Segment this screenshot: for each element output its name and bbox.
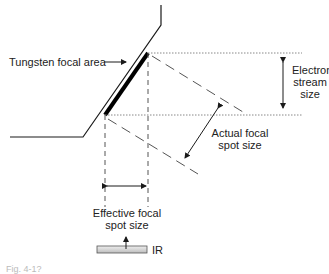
anode-outline [10, 5, 161, 137]
image-receptor-label: IR [152, 244, 163, 256]
actual-bottom-line [108, 119, 198, 174]
actual-focal-label-line1: Actual focal [200, 127, 280, 139]
effective-focal-label: Effective focal spot size [86, 207, 168, 231]
electron-stream-label-line3: size [292, 88, 328, 100]
actual-focal-label: Actual focal spot size [200, 127, 280, 151]
electron-stream-label-line1: Electron [292, 64, 328, 76]
effective-focal-label-line2: spot size [86, 219, 168, 231]
effective-focal-label-line1: Effective focal [86, 207, 168, 219]
actual-focal-label-line2: spot size [200, 139, 280, 151]
electron-stream-label: Electron stream size [292, 64, 328, 100]
tungsten-focal-area-label: Tungsten focal area [9, 56, 106, 68]
image-receptor-bar [97, 246, 147, 253]
electron-stream-label-line2: stream [292, 76, 328, 88]
figure-caption: Fig. 4-1? [6, 264, 42, 274]
actual-top-line [152, 56, 243, 112]
